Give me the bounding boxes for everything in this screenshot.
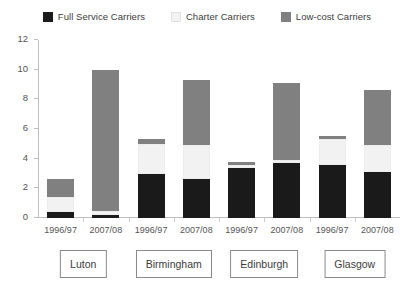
y-tick: 0	[34, 217, 38, 218]
bar-segment	[183, 80, 210, 145]
x-axis-labels: 1996/972007/081996/972007/081996/972007/…	[38, 224, 400, 238]
bar-segment	[273, 83, 300, 160]
legend-label-low-cost: Low-cost Carriers	[296, 12, 371, 22]
stacked-bar	[228, 162, 255, 218]
bar-segment	[47, 212, 74, 218]
stacked-bar	[92, 70, 119, 218]
x-axis-label: 1996/97	[225, 224, 258, 236]
y-tick: 8	[34, 98, 38, 99]
x-axis-label: 2007/08	[361, 224, 394, 236]
group-box-birmingham: Birmingham	[136, 250, 212, 278]
x-tick	[310, 218, 311, 222]
bar-segment	[364, 90, 391, 146]
y-tick-label: 6	[23, 122, 28, 133]
legend-swatch-low-cost-icon	[281, 12, 291, 22]
y-tick: 2	[34, 187, 38, 188]
x-tick	[174, 218, 175, 222]
x-tick	[219, 218, 220, 222]
y-tick: 10	[34, 69, 38, 70]
bar-segment	[47, 179, 74, 197]
bar-segment	[92, 215, 119, 218]
y-tick-label: 12	[17, 33, 28, 44]
group-box-glasgow: Glasgow	[324, 250, 385, 278]
y-tick-label: 4	[23, 152, 28, 163]
stacked-bar	[319, 136, 346, 218]
bar-segment	[183, 179, 210, 218]
bar-segment	[183, 145, 210, 179]
x-tick	[129, 218, 130, 222]
stacked-bar	[183, 80, 210, 218]
stacked-bar-chart: Full Service Carriers Charter Carriers L…	[0, 0, 414, 291]
y-tick: 4	[34, 158, 38, 159]
y-tick-label: 0	[23, 211, 28, 222]
x-axis-label: 1996/97	[44, 224, 77, 236]
bar-segment	[138, 144, 165, 174]
bar-segment	[92, 70, 119, 211]
x-axis-label: 2007/08	[90, 224, 123, 236]
stacked-bar	[273, 83, 300, 218]
group-box-label: Edinburgh	[240, 258, 288, 270]
legend-item-charter: Charter Carriers	[171, 12, 255, 22]
stacked-bar	[364, 90, 391, 218]
x-axis-label: 2007/08	[180, 224, 213, 236]
legend-swatch-charter-icon	[171, 12, 181, 22]
bar-segment	[228, 168, 255, 218]
bar-segment	[273, 163, 300, 218]
x-tick	[83, 218, 84, 222]
bar-segment	[138, 174, 165, 219]
bar-segment	[47, 197, 74, 212]
legend-item-low-cost: Low-cost Carriers	[281, 12, 371, 22]
y-tick: 6	[34, 128, 38, 129]
group-label-boxes: LutonBirminghamEdinburghGlasgow	[38, 250, 400, 280]
y-tick-label: 2	[23, 181, 28, 192]
legend-label-full-service: Full Service Carriers	[58, 12, 145, 22]
bar-segment	[364, 172, 391, 218]
x-axis-label: 1996/97	[135, 224, 168, 236]
bar-segment	[364, 145, 391, 172]
group-box-label: Glasgow	[334, 258, 375, 270]
x-axis-label: 1996/97	[316, 224, 349, 236]
legend-swatch-full-service-icon	[43, 12, 53, 22]
x-axis-label: 2007/08	[271, 224, 304, 236]
y-tick: 12	[34, 39, 38, 40]
legend-label-charter: Charter Carriers	[186, 12, 255, 22]
x-tick	[355, 218, 356, 222]
group-box-label: Luton	[70, 258, 96, 270]
group-box-luton: Luton	[60, 250, 106, 278]
stacked-bar	[138, 139, 165, 218]
y-tick-label: 10	[17, 63, 28, 74]
stacked-bar	[47, 179, 74, 218]
chart-legend: Full Service Carriers Charter Carriers L…	[0, 12, 414, 22]
group-box-edinburgh: Edinburgh	[230, 250, 298, 278]
bar-segment	[319, 165, 346, 218]
plot-area: 024681012	[38, 40, 400, 218]
y-tick-label: 8	[23, 92, 28, 103]
group-box-label: Birmingham	[146, 258, 202, 270]
legend-item-full-service: Full Service Carriers	[43, 12, 145, 22]
y-axis-line	[38, 40, 39, 218]
x-tick	[264, 218, 265, 222]
bar-segment	[319, 139, 346, 164]
